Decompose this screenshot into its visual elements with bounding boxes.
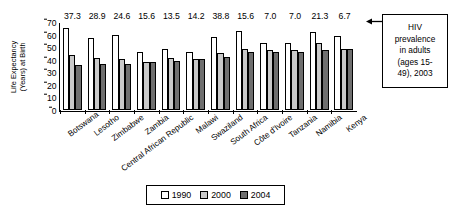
bar-group	[307, 23, 332, 110]
hiv-value: 15.6	[134, 10, 159, 22]
legend-swatch-icon	[200, 191, 208, 199]
y-axis-tick-label: 60	[47, 31, 57, 40]
hiv-value: 21.3	[308, 10, 333, 22]
y-axis-tick-label: 30	[47, 69, 57, 78]
y-axis-tick-mark	[44, 82, 47, 83]
y-axis-tick-label: 20	[47, 82, 57, 91]
hiv-value: 13.5	[159, 10, 184, 22]
chart-figure: Life Expectancy (Years) at Birth 37.3 28…	[0, 0, 453, 212]
bar-2004	[298, 52, 304, 110]
y-axis-tick-label: 0	[52, 107, 57, 116]
hiv-value: 38.8	[209, 10, 234, 22]
x-axis-labels: BotswanaLesothoZimbabweZambiaCentral Afr…	[60, 113, 357, 169]
bar-groups	[60, 23, 356, 110]
legend-label: 2000	[211, 191, 231, 200]
bar-group	[183, 23, 208, 110]
callout-line-3: in adults	[400, 45, 431, 57]
hiv-value: 7.0	[283, 10, 308, 22]
bar-group	[233, 23, 258, 110]
bar-2004	[125, 64, 131, 111]
y-axis-tick-mark	[44, 56, 47, 57]
bar-2004	[100, 64, 106, 111]
bar-group	[60, 23, 85, 110]
hiv-value: 24.6	[110, 10, 135, 22]
plot-area: 706050403020100	[59, 23, 356, 111]
callout-line-4: (ages 15-	[397, 57, 432, 69]
bar-group	[134, 23, 159, 110]
bar-group	[109, 23, 134, 110]
bar-group	[159, 23, 184, 110]
bar-2004	[75, 65, 81, 110]
y-axis-tick-mark	[44, 69, 47, 70]
legend-swatch-icon	[161, 191, 169, 199]
legend-swatch-icon	[240, 191, 248, 199]
bar-2004	[174, 61, 180, 110]
y-axis-tick-mark	[44, 19, 47, 20]
hiv-value: 15.6	[233, 10, 258, 22]
bar-2004	[347, 49, 353, 110]
legend-item-2000: 2000	[200, 191, 231, 200]
bar-2004	[224, 57, 230, 110]
callout-arrow-icon	[366, 17, 383, 26]
y-axis-tick-mark	[44, 94, 47, 95]
hiv-prevalence-value-row: 37.3 28.9 24.6 15.6 13.5 14.2 38.8 15.6 …	[60, 10, 357, 22]
y-axis-title: Life Expectancy (Years) at Birth	[5, 8, 31, 126]
bar-group	[257, 23, 282, 110]
bar-group	[331, 23, 356, 110]
bar-2004	[322, 50, 328, 110]
y-axis-tick-label: 50	[47, 44, 57, 53]
y-axis-title-line2: (Years) at Birth	[18, 42, 27, 91]
legend-item-1990: 1990	[161, 191, 192, 200]
hiv-value: 14.2	[184, 10, 209, 22]
hiv-value: 37.3	[60, 10, 85, 22]
legend-item-2004: 2004	[240, 191, 271, 200]
callout-line-5: 49), 2003	[397, 68, 432, 80]
y-axis-tick-mark	[44, 31, 47, 32]
hiv-prevalence-callout: HIV prevalence in adults (ages 15- 49), …	[382, 14, 448, 88]
y-axis-title-line1: Life Expectancy	[9, 41, 18, 93]
bar-2004	[150, 62, 156, 110]
hiv-value: 28.9	[85, 10, 110, 22]
legend-label: 1990	[172, 191, 192, 200]
bar-2004	[273, 52, 279, 110]
hiv-value: 7.0	[258, 10, 283, 22]
y-axis-tick-label: 10	[47, 94, 57, 103]
bar-group	[282, 23, 307, 110]
y-axis-tick-mark	[44, 44, 47, 45]
legend-label: 2004	[251, 191, 271, 200]
callout-line-1: HIV	[408, 22, 422, 34]
y-axis-tick-label: 70	[47, 19, 57, 28]
y-axis-tick-label: 40	[47, 56, 57, 65]
hiv-value: 6.7	[332, 10, 357, 22]
bar-2004	[248, 52, 254, 110]
callout-line-2: prevalence	[395, 34, 436, 46]
y-axis-tick-mark	[49, 107, 52, 108]
chart-legend: 1990 2000 2004	[146, 185, 285, 205]
bar-group	[208, 23, 233, 110]
bar-2004	[199, 59, 205, 110]
bar-group	[85, 23, 110, 110]
